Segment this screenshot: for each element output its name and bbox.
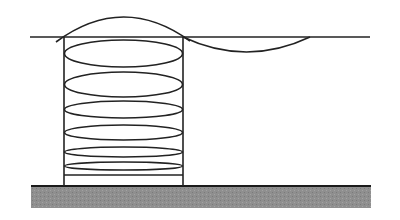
coil-ring-1 [65, 40, 183, 67]
coil-ring-5 [65, 147, 183, 157]
coils [65, 40, 183, 170]
coil-ring-2 [65, 72, 183, 97]
coil-ring-4 [65, 125, 183, 140]
diagram-canvas [0, 0, 400, 220]
water-surface [30, 17, 370, 52]
ground-fill [31, 186, 371, 208]
coil-ring-3 [65, 101, 183, 118]
spring-cylinder-diagram [0, 0, 400, 220]
ground [31, 186, 371, 208]
bulge-arc [56, 17, 190, 42]
coil-ring-6 [65, 162, 183, 170]
sag-arc [183, 37, 310, 52]
